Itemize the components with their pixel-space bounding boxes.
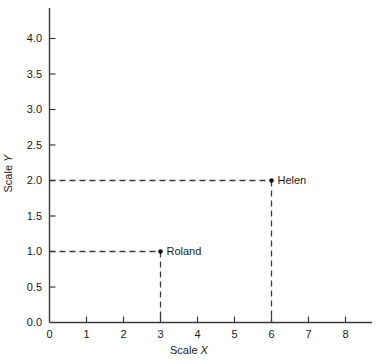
axes-group <box>50 8 373 323</box>
x-tick-label: 4 <box>184 329 212 340</box>
x-tick-label: 5 <box>221 329 249 340</box>
y-tick-label: 3.5 <box>8 69 42 80</box>
data-point-marker[interactable] <box>269 178 274 183</box>
x-tick-label: 0 <box>36 329 64 340</box>
x-tick-label: 6 <box>258 329 286 340</box>
y-axis-title-variable: Y <box>2 155 14 162</box>
data-point-label: Helen <box>278 175 307 186</box>
y-tick-label: 1.0 <box>8 246 42 257</box>
x-tick-label: 2 <box>110 329 138 340</box>
x-tick-label: 8 <box>332 329 360 340</box>
data-point-label: Roland <box>167 246 202 257</box>
y-tick-label: 4.0 <box>8 33 42 44</box>
x-axis-title: Scale X <box>0 345 378 356</box>
plot-area <box>0 0 378 364</box>
x-tick-label: 3 <box>147 329 175 340</box>
x-tick-label: 1 <box>73 329 101 340</box>
y-tick-label: 0.0 <box>8 317 42 328</box>
y-tick-label: 0.5 <box>8 282 42 293</box>
y-tick-label: 1.5 <box>8 211 42 222</box>
data-point-marker[interactable] <box>158 249 163 254</box>
y-tick-label: 3.0 <box>8 104 42 115</box>
y-axis-title-prefix: Scale <box>2 162 14 193</box>
x-axis-title-variable: X <box>201 344 208 356</box>
y-axis-title: Scale Y <box>3 142 14 206</box>
scatter-plot-figure: 0.00.51.01.52.02.53.03.54.0 012345678 Ro… <box>0 0 378 364</box>
x-tick-label: 7 <box>295 329 323 340</box>
x-axis-title-prefix: Scale <box>170 344 201 356</box>
data-points-group <box>158 178 274 254</box>
